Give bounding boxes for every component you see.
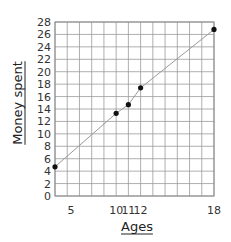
y-tick-label: 22: [37, 53, 51, 66]
series-group: [52, 27, 216, 170]
y-tick-label: 14: [37, 103, 51, 116]
x-tick-label: 12: [134, 204, 148, 217]
x-tick-label: 5: [68, 204, 75, 217]
y-axis-ticks: 0246810121416182022242628: [37, 16, 51, 203]
y-tick-label: 0: [44, 190, 51, 203]
x-axis-label: Ages: [121, 219, 153, 234]
y-tick-label: 2: [44, 178, 51, 191]
data-point: [114, 111, 119, 116]
y-tick-label: 10: [37, 128, 51, 141]
y-tick-label: 24: [37, 41, 51, 54]
y-axis-label: Money spent: [10, 61, 25, 145]
y-tick-label: 6: [44, 153, 51, 166]
y-tick-label: 16: [37, 91, 51, 104]
y-tick-label: 8: [44, 140, 51, 153]
x-tick-label: 18: [207, 204, 221, 217]
x-axis-ticks: 510111218: [68, 204, 222, 217]
data-point: [126, 102, 131, 107]
y-tick-label: 26: [37, 28, 51, 41]
data-point: [52, 164, 57, 169]
data-point: [211, 27, 216, 32]
y-tick-label: 12: [37, 115, 51, 128]
line-chart: 0246810121416182022242628 510111218 Mone…: [0, 0, 231, 242]
y-tick-label: 4: [44, 165, 51, 178]
y-tick-label: 20: [37, 66, 51, 79]
y-tick-label: 28: [37, 16, 51, 29]
y-tick-label: 18: [37, 78, 51, 91]
data-point: [138, 85, 143, 90]
